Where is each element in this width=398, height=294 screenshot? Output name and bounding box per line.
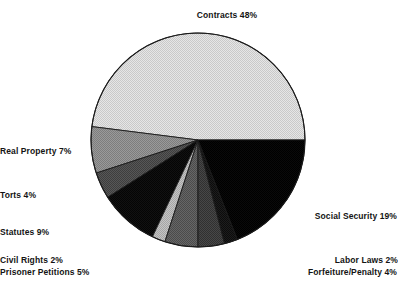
- slice-label-forfeiture-penalty: Forfeiture/Penalty 4%: [213, 267, 397, 278]
- slice-label-statutes: Statutes 9%: [0, 227, 110, 238]
- slice-label-prisoner-petitions: Prisoner Petitions 5%: [0, 267, 184, 278]
- slice-label-real-property: Real Property 7%: [0, 146, 94, 157]
- pie-slice-contracts: [92, 33, 305, 140]
- slice-label-civil-rights: Civil Rights 2%: [0, 255, 184, 266]
- slice-label-torts: Torts 4%: [0, 190, 92, 201]
- slice-label-contracts: Contracts 48%: [172, 10, 282, 21]
- slice-label-labor-laws: Labor Laws 2%: [228, 255, 398, 266]
- slice-label-social-security: Social Security 19%: [302, 211, 397, 222]
